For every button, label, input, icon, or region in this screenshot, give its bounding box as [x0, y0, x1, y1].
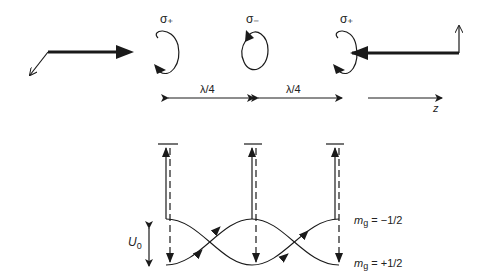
- polarization-sigma-plus-1: [154, 31, 179, 74]
- potential-curve-mg-minus-half: [166, 219, 339, 265]
- absorption-arrows: [166, 148, 335, 219]
- level-label-upper: mg = −1/2: [354, 214, 402, 228]
- right-beam: [350, 26, 459, 60]
- polarization-sigma-minus: [242, 30, 268, 70]
- z-axis-label: z: [432, 102, 439, 114]
- polarization-label-2: σ₋: [246, 12, 259, 26]
- emission-arrows: [170, 148, 339, 262]
- polarization-label-1: σ₊: [160, 12, 173, 26]
- potential-depth-label: U0: [128, 235, 142, 251]
- atom-motion-arrows: [196, 227, 308, 259]
- left-beam: [30, 45, 134, 75]
- rotation-arrow-icon: [333, 64, 345, 74]
- spacing-label-2: λ/4: [286, 83, 301, 95]
- potential-curve-mg-plus-half: [166, 219, 339, 265]
- left-beam-arrowhead: [116, 45, 134, 59]
- polarization-label-3: σ₊: [340, 12, 353, 26]
- right-beam-arrowhead: [350, 46, 368, 60]
- rotation-arrow-icon: [154, 64, 166, 74]
- diagram-canvas: σ₊ σ₋ σ₊ λ/4 λ/4 z: [0, 0, 481, 280]
- spacing-label-1: λ/4: [200, 83, 215, 95]
- level-label-lower: mg = +1/2: [354, 257, 402, 271]
- left-polarization-vector: [30, 52, 48, 75]
